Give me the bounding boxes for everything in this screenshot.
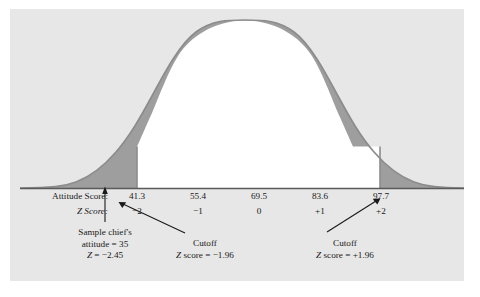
cutoff-right-annotation: Cutoff Z score = +1.96 — [316, 238, 374, 261]
sample-chief-line-1: Sample chief's — [78, 227, 131, 239]
z-tick-3: 0 — [257, 206, 262, 216]
sample-chief-annotation: Sample chief's attitude = 35 Z = −2.45 — [78, 227, 131, 262]
sample-chief-line-3: Z = −2.45 — [78, 250, 131, 262]
cutoff-right-line-2: Z score = +1.96 — [316, 250, 374, 262]
attitude-tick-1: 41.3 — [129, 191, 145, 201]
sample-chief-line-2: attitude = 35 — [78, 239, 131, 251]
cutoff-left-line-1: Cutoff — [176, 238, 234, 250]
figure-container: Attitude Score: Z Score: 41.3 55.4 69.5 … — [0, 0, 480, 297]
z-tick-4: +1 — [315, 206, 325, 216]
attitude-tick-5: 97.7 — [373, 191, 389, 201]
normal-distribution-plot — [0, 0, 480, 297]
cutoff-right-z-value: score = +1.96 — [321, 250, 374, 260]
z-tick-2: −1 — [193, 206, 203, 216]
attitude-tick-4: 83.6 — [312, 191, 328, 201]
z-score-row-label: Z Score: — [22, 206, 108, 216]
z-tick-1: −2 — [132, 206, 142, 216]
attitude-tick-3: 69.5 — [251, 191, 267, 201]
cutoff-left-z-value: score = −1.96 — [181, 250, 234, 260]
cutoff-right-arrow-shaft — [327, 201, 376, 232]
cutoff-left-annotation: Cutoff Z score = −1.96 — [176, 238, 234, 261]
attitude-score-row-label: Attitude Score: — [22, 191, 108, 201]
attitude-tick-2: 55.4 — [190, 191, 206, 201]
cutoff-right-line-1: Cutoff — [316, 238, 374, 250]
non-rejection-region — [137, 21, 380, 189]
cutoff-left-line-2: Z score = −1.96 — [176, 250, 234, 262]
sample-chief-z-value: = −2.45 — [92, 250, 123, 260]
z-tick-5: +2 — [376, 206, 386, 216]
